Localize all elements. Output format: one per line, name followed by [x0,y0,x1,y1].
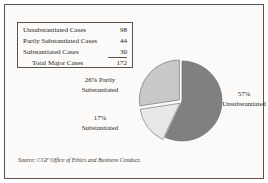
chart-figure: Unsubstantiated Cases 98 Partly Substant… [0,0,268,183]
case-counts-table: Unsubstantiated Cases 98 Partly Substant… [17,22,133,68]
table-row: Unsubstantiated Cases 98 [23,25,127,36]
pie-label-unsubstantiated-pct: 57% [213,89,268,99]
pie-label-partly-name: Substantiated [67,85,133,95]
row-value-substantiated: 30 [108,47,127,58]
table-body: Unsubstantiated Cases 98 Partly Substant… [23,25,127,69]
row-label-unsubstantiated: Unsubstantiated Cases [23,25,108,36]
table-row-total: Total Major Cases 172 [23,58,127,69]
source-note: Source: CGF Office of Ethics and Busines… [18,157,141,163]
pie-label-partly-substantiated: 26% Partly Substantiated [67,75,133,95]
figure-frame: Unsubstantiated Cases 98 Partly Substant… [4,4,264,179]
row-label-total: Total Major Cases [23,58,108,69]
table-row: Partly Substantiated Cases 44 [23,36,127,47]
row-label-partly-substantiated: Partly Substantiated Cases [23,36,108,47]
pie-slice-partly-group [139,60,179,106]
table-row: Substantiated Cases 30 [23,47,127,58]
row-value-partly-substantiated: 44 [108,36,127,47]
row-label-substantiated: Substantiated Cases [23,47,108,58]
pie-label-substantiated-pct: 17% [67,113,133,123]
pie-label-substantiated: 17% Substantiated [67,113,133,133]
pie-label-unsubstantiated: 57% Unsubstantiated [213,89,268,109]
pie-slice-partly-substantiated [139,60,179,106]
pie-label-unsubstantiated-name: Unsubstantiated [213,99,268,109]
row-value-unsubstantiated: 98 [108,25,127,36]
row-value-total: 172 [108,58,127,69]
pie-label-partly-pct: 26% Partly [67,75,133,85]
pie-label-substantiated-name: Substantiated [67,123,133,133]
case-counts-grid: Unsubstantiated Cases 98 Partly Substant… [23,25,127,69]
